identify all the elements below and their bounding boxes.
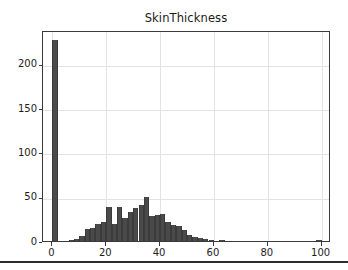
y-tick-label-200: 200 xyxy=(3,58,37,69)
x-tick-mark-60 xyxy=(213,242,214,246)
y-tick-mark-0 xyxy=(39,242,43,243)
plot-area xyxy=(42,31,330,242)
y-tick-label-150: 150 xyxy=(3,103,37,114)
x-tick-label-20: 20 xyxy=(85,247,125,258)
chart-title: SkinThickness xyxy=(42,11,330,25)
histogram-bar xyxy=(316,240,321,241)
histogram-bar xyxy=(219,240,224,241)
histogram-bar xyxy=(209,240,214,241)
y-tick-mark-50 xyxy=(39,198,43,199)
y-tick-label-50: 50 xyxy=(3,191,37,202)
x-tick-mark-40 xyxy=(159,242,160,246)
y-tick-mark-200 xyxy=(39,65,43,66)
x-tick-mark-20 xyxy=(105,242,106,246)
y-tick-label-0: 0 xyxy=(3,236,37,247)
y-tick-mark-150 xyxy=(39,109,43,110)
x-tick-label-100: 100 xyxy=(301,247,341,258)
x-tick-mark-100 xyxy=(321,242,322,246)
x-tick-mark-0 xyxy=(51,242,52,246)
x-tick-label-40: 40 xyxy=(139,247,179,258)
x-tick-label-80: 80 xyxy=(247,247,287,258)
histogram-figure: SkinThickness 050100150200 020406080100 xyxy=(0,0,348,270)
x-tick-label-0: 0 xyxy=(31,247,71,258)
y-tick-mark-100 xyxy=(39,153,43,154)
y-tick-label-100: 100 xyxy=(3,147,37,158)
histogram-bar xyxy=(52,40,57,241)
x-tick-mark-80 xyxy=(267,242,268,246)
histogram-bars xyxy=(43,32,329,241)
x-tick-label-60: 60 xyxy=(193,247,233,258)
bottom-rule xyxy=(0,261,348,263)
